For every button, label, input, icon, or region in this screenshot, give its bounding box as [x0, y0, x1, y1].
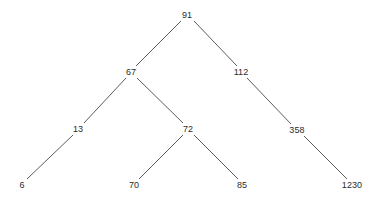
- tree-edge: [136, 21, 181, 66]
- tree-node-label: 13: [73, 124, 83, 134]
- tree-edge: [27, 135, 73, 179]
- tree-edge: [139, 135, 183, 179]
- tree-node-label: 1230: [342, 180, 362, 190]
- tree-node-label: 72: [183, 124, 193, 134]
- tree-edge: [194, 21, 237, 66]
- tree-node-label: 85: [237, 180, 247, 190]
- tree-node-label: 6: [19, 180, 24, 190]
- tree-edge: [194, 135, 238, 179]
- tree-edge-layer: [0, 0, 380, 199]
- tree-node-label: 70: [129, 180, 139, 190]
- tree-node-label: 91: [182, 10, 192, 20]
- tree-node-label: 358: [289, 125, 304, 135]
- tree-edge: [137, 78, 183, 123]
- tree-edge: [84, 78, 126, 123]
- tree-edge: [247, 78, 291, 124]
- binary-tree-diagram: 91671121372358670851230: [0, 0, 380, 199]
- tree-edge: [304, 136, 347, 179]
- tree-node-label: 112: [234, 67, 249, 77]
- tree-node-label: 67: [126, 67, 136, 77]
